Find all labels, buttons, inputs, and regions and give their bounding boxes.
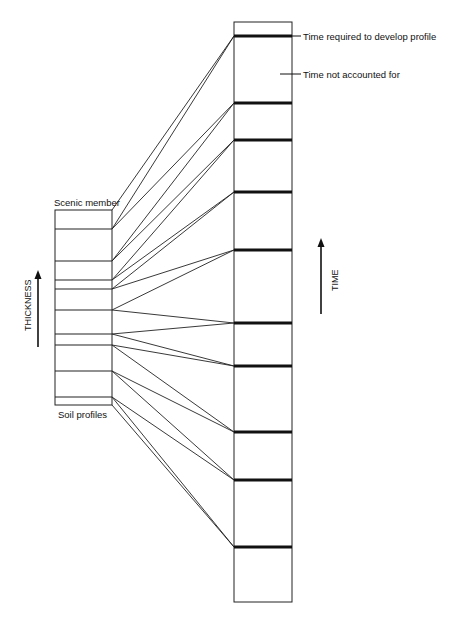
legend-time-required: Time required to develop profile	[292, 31, 436, 42]
correlation-line	[112, 334, 234, 366]
right-column-time	[234, 22, 292, 602]
correlation-line	[112, 192, 234, 280]
correlation-line	[112, 323, 234, 334]
time-arrow-icon	[318, 238, 325, 314]
scenic-member-label: Scenic member	[54, 197, 120, 208]
soil-profile-time-diagram: Scenic member Soil profiles THICKNESS TI…	[0, 0, 452, 619]
legend-time-required-text: Time required to develop profile	[303, 31, 436, 42]
correlation-line	[112, 310, 234, 323]
right-column-outline	[234, 22, 292, 602]
left-column-outline	[55, 210, 112, 405]
legend-time-not-accounted-text: Time not accounted for	[303, 69, 400, 80]
correlation-line	[112, 371, 234, 480]
correlation-line	[112, 192, 234, 289]
correlation-line	[112, 371, 234, 432]
correlation-lines	[112, 36, 234, 547]
correlation-line	[112, 250, 234, 289]
correlation-line	[112, 345, 234, 366]
correlation-line	[112, 103, 234, 261]
thickness-axis-label: THICKNESS	[23, 279, 33, 331]
soil-profiles-label: Soil profiles	[58, 409, 107, 420]
time-axis-label: TIME	[330, 270, 340, 292]
thickness-arrow-icon	[35, 270, 42, 347]
left-column-scenic-member	[55, 210, 112, 405]
correlation-line	[112, 397, 234, 480]
legend-time-not-accounted: Time not accounted for	[280, 69, 400, 80]
correlation-line	[112, 405, 234, 547]
correlation-line	[112, 36, 234, 210]
